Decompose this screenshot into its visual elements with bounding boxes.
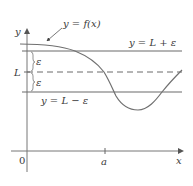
a-label: a [101, 156, 107, 167]
epsilon-brace-lower [31, 73, 35, 91]
epsilon-upper-label: ε [36, 56, 41, 67]
y-axis-label: y [14, 26, 21, 37]
curve-pointer-arrow [48, 28, 62, 40]
epsilon-band-diagram: y x 0 a L ε ε y = f(x) y = L + ε y = L −… [0, 0, 193, 186]
curve-label: y = f(x) [62, 18, 101, 29]
epsilon-lower-label: ε [36, 77, 41, 88]
x-axis-label: x [176, 155, 182, 166]
origin-label: 0 [19, 155, 25, 166]
epsilon-brace-upper [31, 52, 35, 71]
L-label: L [13, 67, 21, 78]
lower-line-label: y = L − ε [40, 95, 88, 106]
upper-line-label: y = L + ε [128, 37, 176, 48]
